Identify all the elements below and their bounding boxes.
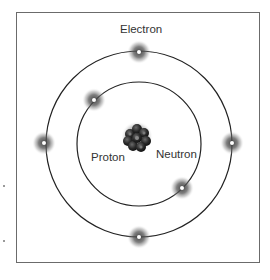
neutron-label: Neutron <box>156 148 197 160</box>
electron-outer-right <box>220 131 244 155</box>
atom-diagram: Electron Proton Neutron <box>0 0 270 280</box>
electron-inner-lower-right <box>170 176 194 200</box>
edge-artifact <box>3 240 5 242</box>
electron-outer-bottom <box>127 225 151 249</box>
edge-artifact <box>3 185 5 187</box>
electron-label: Electron <box>120 23 162 35</box>
electron-inner-upper-left <box>82 88 106 112</box>
electron-outer-top <box>127 40 151 64</box>
electron-outer-left <box>32 131 56 155</box>
proton-label: Proton <box>91 151 125 163</box>
atom-graphic <box>0 0 270 280</box>
nucleus <box>121 121 153 153</box>
